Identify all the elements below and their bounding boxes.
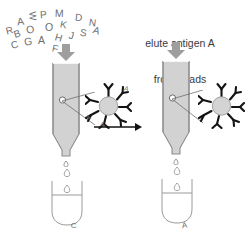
antigen-letter-p-3: P: [40, 10, 47, 20]
left-tube-contents: C K R N etc: [53, 196, 81, 229]
antigen-letter-s-16: S: [79, 27, 87, 38]
antibody-affinity-chromatography-diagram: RAWPMDNBOOKCGAHJSAFL elute antigen A fro…: [0, 0, 247, 229]
right-falling-drop: [171, 166, 183, 178]
antigen-letter-j-15: J: [68, 31, 75, 42]
antigen-letter-w-2: W: [27, 11, 38, 21]
left-tube-letter-c: C: [71, 221, 77, 230]
right-tube-letter-a1: A: [181, 221, 187, 229]
antigen-letter-k-10: K: [59, 19, 68, 30]
antigen-letter-c-11: C: [10, 39, 20, 51]
right-bead-without-bound-antigen: [198, 82, 245, 133]
antigen-letter-m-4: M: [55, 8, 64, 18]
elution-step-arrow: [94, 121, 142, 133]
antigen-letter-a-1: A: [16, 16, 24, 27]
left-tube-drop: [61, 184, 73, 196]
antigen-letter-o-9: O: [45, 22, 53, 32]
right-tube-contents: A A A: [165, 196, 191, 229]
left-falling-drop: [61, 168, 73, 180]
antigen-letter-a-13: A: [38, 35, 45, 45]
antigen-letter-a-17: A: [92, 25, 101, 37]
elution-buffer-down-arrow: [166, 42, 186, 59]
right-tube-drop: [171, 182, 183, 194]
antigen-letter-o-8: O: [25, 24, 34, 35]
antigen-letter-d-5: D: [74, 13, 82, 24]
sample-load-down-arrow: [56, 44, 76, 61]
antigen-letter-g-12: G: [23, 36, 32, 47]
